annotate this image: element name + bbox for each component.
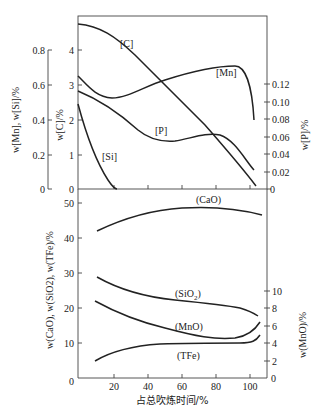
- bottom-left-ylabel: w(CaO), w(SiO2), w(TFe)/%: [44, 231, 56, 349]
- label-Si: [Si]: [102, 151, 117, 162]
- svg-text:2: 2: [69, 115, 74, 126]
- svg-text:100: 100: [243, 381, 258, 392]
- svg-text:0: 0: [69, 184, 74, 195]
- svg-text:4: 4: [69, 45, 74, 56]
- svg-text:0.6: 0.6: [33, 80, 46, 91]
- top-plot-frame: [78, 16, 267, 189]
- bottom-left-ticks: 0 10 20 30 40 50: [64, 198, 82, 387]
- svg-text:0: 0: [40, 184, 45, 195]
- svg-text:0.02: 0.02: [272, 167, 290, 178]
- svg-text:0.10: 0.10: [272, 97, 290, 108]
- svg-text:0.8: 0.8: [33, 45, 46, 56]
- curve-CaO: [97, 207, 262, 231]
- label-C: [C]: [120, 38, 133, 49]
- svg-text:0.04: 0.04: [272, 149, 290, 160]
- label-Mn: [Mn]: [216, 67, 237, 78]
- top-right-axis: 0 0.02 0.04 0.06 0.08 0.10 0.12: [264, 79, 290, 195]
- svg-text:1: 1: [69, 150, 74, 161]
- svg-text:0.08: 0.08: [272, 114, 290, 125]
- top-inner-left-axis: 0 1 2 3 4: [69, 45, 82, 195]
- bottom-right-ylabel: w(MnO)/%: [297, 312, 309, 358]
- svg-text:0: 0: [271, 373, 276, 384]
- svg-text:80: 80: [211, 381, 221, 392]
- svg-text:40: 40: [143, 381, 153, 392]
- top-outer-left-axis: 0 0.2 0.4 0.6 0.8: [33, 45, 53, 195]
- svg-text:20: 20: [64, 303, 74, 314]
- label-P: [P]: [155, 125, 167, 136]
- curve-Si: [78, 104, 117, 189]
- top-x-ticks: [114, 185, 250, 189]
- svg-text:0.2: 0.2: [33, 150, 46, 161]
- svg-text:0.4: 0.4: [33, 115, 46, 126]
- svg-text:4: 4: [272, 338, 277, 349]
- svg-text:3: 3: [69, 80, 74, 91]
- svg-text:10: 10: [272, 286, 282, 297]
- top-inner-ylabel: w[C]/%: [54, 109, 65, 141]
- svg-text:50: 50: [64, 198, 74, 209]
- svg-text:2: 2: [272, 356, 277, 367]
- svg-text:6: 6: [272, 321, 277, 332]
- svg-text:40: 40: [64, 233, 74, 244]
- svg-text:60: 60: [177, 381, 187, 392]
- top-right-ylabel: w[P]/%: [299, 120, 310, 151]
- svg-text:30: 30: [64, 268, 74, 279]
- svg-text:0: 0: [270, 184, 275, 195]
- top-outer-ylabel: w[Mn], w[Si]/%: [10, 87, 21, 153]
- svg-text:20: 20: [109, 381, 119, 392]
- label-CaO: (CaO): [196, 194, 221, 206]
- svg-text:0: 0: [69, 376, 74, 387]
- svg-text:0.12: 0.12: [272, 79, 290, 90]
- x-axis-label: 占总吹炼时间/%: [136, 394, 209, 406]
- converter-blowing-chart: 0 0.2 0.4 0.6 0.8 w[Mn], w[Si]/% 0 1 2 3…: [0, 0, 324, 418]
- svg-text:0.06: 0.06: [272, 132, 290, 143]
- svg-text:8: 8: [272, 303, 277, 314]
- label-MnO: (MnO): [175, 321, 203, 333]
- bottom-x-ticks: 20 40 60 80 100: [109, 374, 258, 392]
- svg-text:10: 10: [64, 338, 74, 349]
- label-TFe: (TFe): [177, 350, 200, 362]
